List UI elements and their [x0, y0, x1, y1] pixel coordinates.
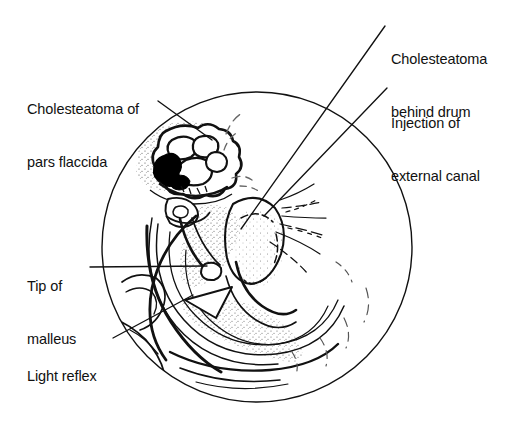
label-injection-line2: external canal	[391, 168, 480, 186]
cholesteatoma-pars-flaccida-mass	[153, 124, 242, 198]
label-cholesteatoma-pars-flaccida: Cholesteatoma of pars flaccida	[27, 66, 139, 206]
umbo-tip-of-malleus	[201, 263, 221, 280]
lateral-process-highlight	[173, 206, 188, 218]
label-light-reflex-line1: Light reflex	[27, 368, 97, 386]
cholesteatoma-dark-pocket-2	[170, 175, 190, 190]
cholesteatoma-lobule-4	[206, 152, 227, 172]
label-pars-flaccida-line2: pars flaccida	[27, 154, 139, 172]
label-injection-line1: Injection of	[391, 115, 480, 133]
label-light-reflex: Light reflex	[27, 333, 97, 421]
label-behind-drum-line1: Cholesteatoma	[391, 51, 487, 69]
label-injection-external-canal: Injection of external canal	[391, 80, 480, 220]
figure-root: Cholesteatoma of pars flaccida Cholestea…	[0, 0, 524, 422]
label-tip-malleus-line1: Tip of	[27, 278, 76, 296]
label-pars-flaccida-line1: Cholesteatoma of	[27, 101, 139, 119]
